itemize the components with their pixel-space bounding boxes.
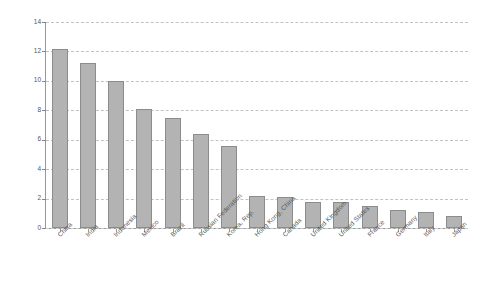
bar xyxy=(165,118,181,228)
y-tick-label: 14 xyxy=(21,19,41,26)
plot-area xyxy=(46,22,468,228)
bar xyxy=(108,81,124,228)
y-tick-mark xyxy=(42,199,46,200)
y-tick-label: 12 xyxy=(21,48,41,55)
y-tick-mark xyxy=(42,140,46,141)
gridline xyxy=(46,51,468,52)
y-tick-label: 0 xyxy=(21,225,41,232)
y-tick-mark xyxy=(42,169,46,170)
y-tick-mark xyxy=(42,81,46,82)
y-tick-label: 4 xyxy=(21,166,41,173)
y-tick-mark xyxy=(42,228,46,229)
bar-chart: % Growth Compounded 02468101214 ChinaInd… xyxy=(0,0,486,296)
bar xyxy=(136,109,152,228)
y-tick-mark xyxy=(42,22,46,23)
y-tick-label: 6 xyxy=(21,136,41,143)
bar xyxy=(80,63,96,228)
y-tick-mark xyxy=(42,51,46,52)
y-tick-label: 8 xyxy=(21,107,41,114)
bar xyxy=(52,49,68,229)
y-tick-label: 10 xyxy=(21,77,41,84)
y-tick-mark xyxy=(42,110,46,111)
y-tick-label: 2 xyxy=(21,195,41,202)
bar xyxy=(193,134,209,228)
gridline xyxy=(46,22,468,23)
